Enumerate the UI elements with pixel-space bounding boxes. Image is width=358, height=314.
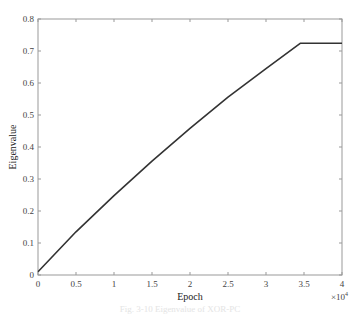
x-tick-label: 0.5 [70,279,82,289]
chart: 00.511.522.533.5400.10.20.30.40.50.60.70… [0,0,358,314]
axes-box [38,19,342,275]
x-tick-label: 4 [340,279,345,289]
x-tick-label: 1.5 [146,279,158,289]
x-tick-label: 3.5 [298,279,310,289]
y-tick-label: 0.8 [23,14,35,24]
x-multiplier-base: ×10 [331,292,346,302]
y-tick-label: 0.2 [23,206,34,216]
x-tick-label: 3 [264,279,269,289]
x-axis-label: Epoch [177,291,203,302]
series-line-eigenvalue [38,43,342,271]
x-tick-label: 2.5 [222,279,234,289]
x-tick-label: 1 [112,279,117,289]
y-tick-label: 0.7 [23,46,35,56]
x-tick-label: 0 [36,279,41,289]
y-tick-label: 0.3 [23,174,35,184]
y-axis-label: Eigenvalue [7,124,18,170]
x-tick-label: 2 [188,279,193,289]
y-tick-label: 0.6 [23,78,35,88]
x-multiplier-exponent: 4 [345,291,348,297]
plot-area: 00.511.522.533.5400.10.20.30.40.50.60.70… [23,14,345,289]
y-tick-label: 0.5 [23,110,35,120]
x-multiplier: ×104 [331,291,348,302]
y-tick-label: 0.4 [23,142,35,152]
figure-caption: Fig. 3-10 Eigenvalue of XOR-PC [120,304,241,314]
y-tick-label: 0 [30,270,35,280]
y-tick-label: 0.1 [23,238,34,248]
